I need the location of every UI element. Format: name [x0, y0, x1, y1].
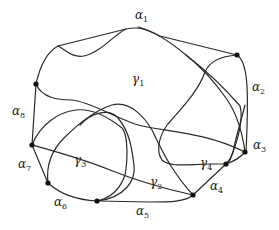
curve-gamma2-arch [80, 112, 134, 201]
label-alpha5: α5 [136, 204, 149, 220]
curve-gamma4-loop [159, 55, 237, 165]
vertex-4 [223, 161, 228, 166]
vertex-3 [242, 149, 247, 154]
label-alpha6: α6 [54, 195, 67, 211]
label-gamma4: γ4 [200, 156, 212, 172]
label-alpha2: α2 [252, 80, 265, 96]
curve-alpha3 [226, 152, 245, 164]
curve-alpha8 [32, 84, 36, 145]
curve-alpha7 [32, 145, 48, 183]
curve-gamma2-lower [32, 145, 193, 195]
label-gamma2: γ2 [150, 175, 162, 191]
curve-gamma1-top [58, 29, 126, 56]
vertex-8 [29, 142, 34, 147]
label-gamma3: γ3 [74, 153, 86, 169]
label-alpha3: α3 [253, 138, 266, 154]
curve-alpha5 [97, 195, 193, 202]
label-alpha1: α1 [135, 8, 148, 24]
vertex-2 [234, 52, 239, 57]
label-gamma1: γ1 [132, 72, 144, 88]
label-alpha7: α7 [18, 157, 31, 173]
curve-diagram: α1 α2 α3 α4 α5 α6 α7 α8 γ1 γ2 γ3 γ4 [0, 0, 279, 230]
vertex-7 [45, 180, 50, 185]
curve-gamma1-left [36, 84, 245, 152]
vertex-5 [190, 192, 195, 197]
vertex-6 [94, 198, 99, 203]
vertex-1 [33, 81, 38, 86]
label-alpha4: α4 [210, 179, 223, 195]
label-alpha8: α8 [12, 104, 25, 120]
